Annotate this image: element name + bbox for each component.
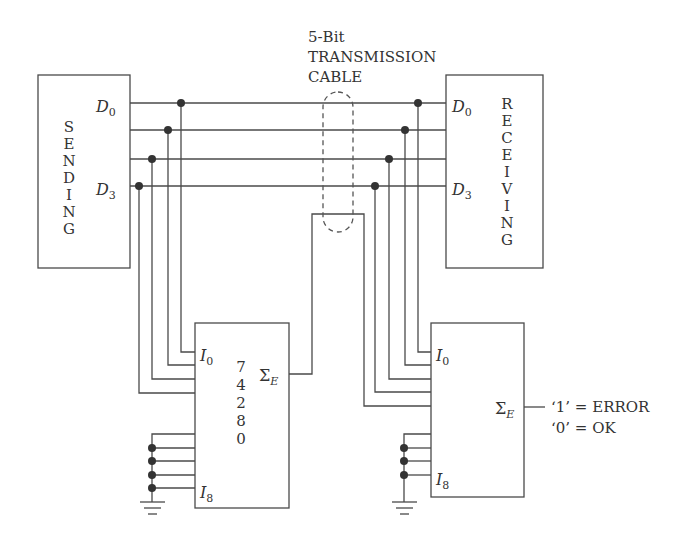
junction-dot [164, 126, 172, 134]
parity-circuit-diagram: 5-Bit TRANSMISSION CABLE S E N D I N G D… [0, 0, 690, 548]
junction-dot [371, 182, 379, 190]
checker-taps [371, 99, 431, 392]
svg-text:2: 2 [236, 394, 246, 412]
sending-block [38, 75, 130, 268]
svg-text:0: 0 [236, 430, 246, 448]
svg-text:E: E [502, 112, 513, 130]
junction-dot [177, 99, 185, 107]
svg-text:C: C [501, 129, 512, 147]
junction-dot [148, 155, 156, 163]
tap-wire [418, 103, 431, 352]
svg-text:R: R [501, 95, 513, 113]
junction-dot [400, 444, 408, 452]
output-legend-error: ‘1’ = ERROR [551, 398, 650, 416]
parity-bit-wire [289, 214, 431, 406]
generator-part-number: 7 4 2 8 0 [236, 358, 246, 448]
cable-label-line2: TRANSMISSION [308, 48, 436, 66]
tap-wire [375, 186, 431, 392]
tap-wire [181, 103, 195, 352]
junction-dot [400, 457, 408, 465]
cable-label-line3: CABLE [308, 68, 362, 86]
svg-text:I: I [504, 197, 510, 215]
sending-label: S E N D I N G [62, 118, 75, 238]
junction-dot [400, 471, 408, 479]
tap-wire [152, 159, 195, 379]
svg-text:G: G [63, 220, 75, 238]
output-legend-ok: ‘0’ = OK [551, 419, 616, 437]
junction-dot [401, 126, 409, 134]
svg-text:N: N [500, 214, 513, 232]
svg-text:N: N [62, 152, 75, 170]
svg-text:7: 7 [236, 358, 246, 376]
tap-wire [389, 159, 431, 379]
generator-ground-inputs [140, 434, 195, 514]
svg-text:S: S [64, 118, 74, 136]
svg-text:8: 8 [236, 412, 246, 430]
svg-text:E: E [64, 135, 75, 153]
junction-dot [148, 457, 156, 465]
junction-dot [148, 471, 156, 479]
generator-taps [135, 99, 195, 393]
junction-dot [385, 155, 393, 163]
tap-wire [139, 186, 195, 393]
junction-dot [414, 99, 422, 107]
ground-wire [404, 434, 431, 502]
checker-ground-inputs [392, 434, 431, 514]
svg-text:V: V [501, 180, 514, 198]
cable-bundle-outline [323, 92, 353, 232]
svg-text:D: D [63, 169, 75, 187]
svg-text:N: N [62, 203, 75, 221]
junction-dot [148, 484, 156, 492]
svg-text:4: 4 [236, 376, 246, 394]
svg-text:G: G [501, 231, 513, 249]
junction-dot [135, 182, 143, 190]
svg-text:I: I [504, 163, 510, 181]
svg-text:E: E [502, 146, 513, 164]
junction-dot [148, 444, 156, 452]
ground-symbol-icon [392, 502, 417, 514]
cable-label-line1: 5-Bit [308, 28, 344, 46]
data-bus [130, 103, 446, 186]
ground-symbol-icon [140, 502, 165, 514]
svg-text:I: I [66, 186, 72, 204]
ground-wire [152, 434, 195, 502]
